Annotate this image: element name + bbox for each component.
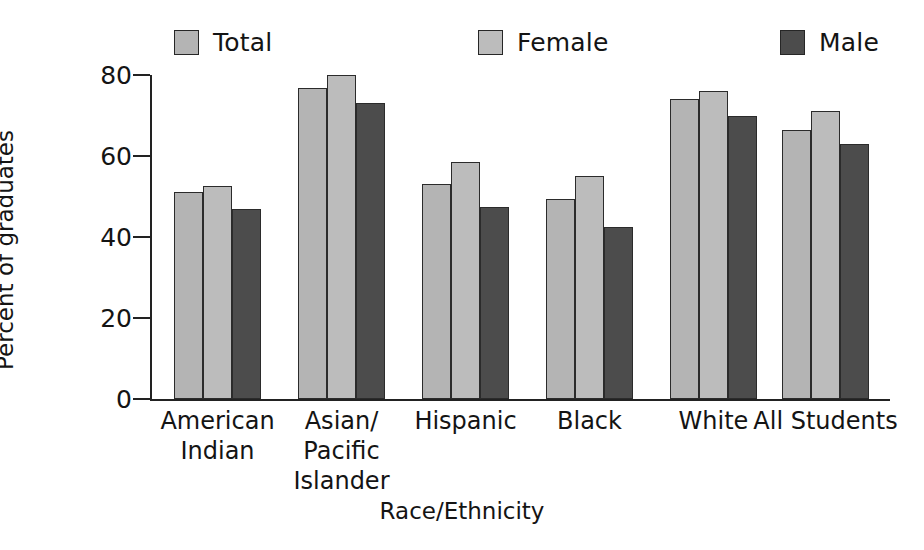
bar bbox=[728, 116, 757, 400]
x-axis-title: Race/Ethnicity bbox=[0, 500, 924, 523]
bar bbox=[356, 103, 385, 399]
bar bbox=[782, 130, 811, 399]
bar bbox=[699, 91, 728, 399]
legend-label-female: Female bbox=[517, 30, 609, 55]
legend-swatch-male-icon bbox=[780, 30, 805, 55]
y-axis-tick bbox=[133, 236, 150, 238]
y-axis-tick bbox=[133, 155, 150, 157]
y-axis-tick-label: 80 bbox=[100, 63, 132, 88]
bar bbox=[298, 88, 327, 399]
legend-swatch-total-icon bbox=[174, 30, 199, 55]
bar bbox=[451, 162, 480, 399]
legend-label-total: Total bbox=[213, 30, 272, 55]
bar-group bbox=[670, 75, 757, 399]
bar bbox=[811, 111, 840, 399]
bar-group bbox=[546, 75, 633, 399]
y-axis-tick-label: 40 bbox=[100, 225, 132, 250]
x-axis-line bbox=[150, 399, 890, 401]
bar bbox=[232, 209, 261, 399]
bar bbox=[575, 176, 604, 399]
y-axis-tick-label: 20 bbox=[100, 306, 132, 331]
x-axis-category-label-line: All Students bbox=[722, 406, 924, 436]
y-axis-tick bbox=[133, 398, 150, 400]
bar-chart: Total Female Male Percent of graduates 0… bbox=[0, 0, 924, 550]
y-axis-tick-label: 60 bbox=[100, 144, 132, 169]
bar-group bbox=[174, 75, 261, 399]
bar bbox=[480, 207, 509, 399]
chart-legend: Total Female Male bbox=[0, 30, 924, 70]
bar bbox=[422, 184, 451, 399]
bar bbox=[327, 75, 356, 399]
bar-group bbox=[422, 75, 509, 399]
x-axis-category-label-line: Islander bbox=[238, 466, 445, 496]
legend-item-total: Total bbox=[174, 30, 272, 55]
bar bbox=[670, 99, 699, 399]
x-axis-category-labels: AmericanIndianAsian/PacificIslanderHispa… bbox=[150, 406, 890, 496]
y-axis-tick-labels: 020406080 bbox=[70, 75, 132, 401]
legend-label-male: Male bbox=[819, 30, 879, 55]
bar bbox=[546, 199, 575, 399]
bar-group bbox=[298, 75, 385, 399]
plot-area bbox=[150, 75, 890, 399]
bar-series-container bbox=[150, 75, 890, 399]
legend-swatch-female-icon bbox=[478, 30, 503, 55]
x-axis-category-label: All Students bbox=[722, 406, 924, 436]
legend-item-female: Female bbox=[478, 30, 609, 55]
y-axis-title: Percent of graduates bbox=[0, 120, 17, 380]
bar-group bbox=[782, 75, 869, 399]
bar bbox=[203, 186, 232, 399]
y-axis-tick bbox=[133, 74, 150, 76]
y-axis-tick bbox=[133, 317, 150, 319]
bar bbox=[174, 192, 203, 399]
bar bbox=[840, 144, 869, 399]
x-axis-category-label-line: Pacific bbox=[238, 436, 445, 466]
legend-item-male: Male bbox=[780, 30, 879, 55]
bar bbox=[604, 227, 633, 399]
